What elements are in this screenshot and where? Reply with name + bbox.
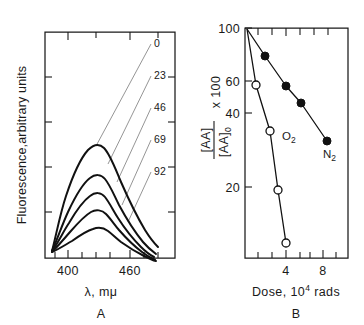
- panel-a-xtick-400: 400: [57, 264, 79, 278]
- panel-a-letter: A: [97, 307, 106, 321]
- panel-b-axis-frame: [245, 28, 348, 258]
- panel-b-xtick-8: 8: [319, 264, 326, 278]
- panel-b-y-axis-suffix: x 100: [209, 76, 223, 109]
- panel-a-y-axis-title: Fluorescence,arbitrary units: [15, 66, 29, 224]
- panel-b-ytick-40: 40: [225, 107, 240, 121]
- panel-a-y-ticks: [45, 77, 52, 212]
- panel-b-series-line-o2: [247, 29, 286, 243]
- panel-b-series-label-o2: O2: [282, 130, 296, 145]
- panel-a-curve-label-0: 0: [154, 37, 160, 49]
- panel-a-curve-23: [52, 175, 156, 254]
- panel-b-x-ticks: [258, 250, 336, 258]
- panel-a-xtick-460: 460: [119, 264, 141, 278]
- panel-b-y-axis-denominator: [AA]0: [217, 127, 233, 157]
- panel-b-x-ticks-top: [258, 28, 328, 36]
- figure-container: 0 23 46 69 92 400 460 λ, mμ Fluorescence…: [0, 0, 364, 325]
- panel-a: 0 23 46 69 92 400 460 λ, mμ Fluorescence…: [0, 0, 190, 325]
- panel-a-axis-frame: [45, 32, 175, 258]
- panel-b-plot: O2 N2 100 60 40 20 4 8 Dose, 104 rads [A…: [190, 0, 364, 325]
- panel-b: O2 N2 100 60 40 20 4 8 Dose, 104 rads [A…: [190, 0, 364, 325]
- panel-b-ytick-20: 20: [225, 181, 240, 195]
- panel-b-x-axis-title: Dose, 104 rads: [252, 283, 340, 299]
- panel-a-plot: 0 23 46 69 92 400 460 λ, mμ Fluorescence…: [0, 0, 190, 325]
- panel-a-curve-46: [52, 193, 154, 257]
- panel-b-letter: B: [292, 307, 301, 321]
- panel-b-series-label-n2: N2: [323, 148, 336, 163]
- panel-a-x-ticks-top: [68, 32, 158, 40]
- panel-a-curves: [52, 145, 158, 261]
- panel-b-ytick-100: 100: [218, 22, 240, 36]
- panel-a-curve-label-69: 69: [154, 133, 166, 145]
- panel-b-series-markers-o2: [252, 81, 290, 247]
- panel-a-x-axis-title: λ, mμ: [85, 285, 118, 299]
- panel-a-curve-label-92: 92: [154, 165, 166, 177]
- panel-a-curve-label-23: 23: [154, 69, 166, 81]
- panel-a-curve-label-46: 46: [154, 101, 166, 113]
- panel-b-xtick-4: 4: [282, 264, 289, 278]
- panel-b-ytick-60: 60: [225, 75, 240, 89]
- panel-a-y-ticks-right: [168, 77, 175, 212]
- panel-b-y-axis-numerator: [AA]: [199, 127, 213, 152]
